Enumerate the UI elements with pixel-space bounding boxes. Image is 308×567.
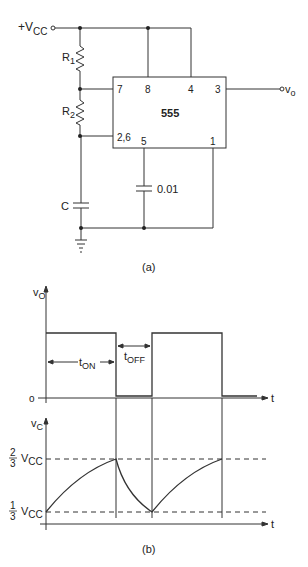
vc-curve	[46, 459, 222, 512]
r2-resistor	[76, 89, 84, 136]
vo-out-label: vo	[285, 83, 296, 98]
svg-text:VCC: VCC	[21, 452, 43, 467]
two-thirds-vcc-label: 2 3 VCC	[9, 447, 43, 469]
svg-text:2: 2	[10, 447, 16, 458]
r2-label: R2	[62, 105, 75, 120]
r1-resistor	[76, 28, 84, 89]
caption-a: (a)	[142, 261, 155, 273]
junction-dots	[78, 26, 150, 230]
ic-label: 555	[161, 107, 179, 119]
toff-label: tOFF	[124, 350, 146, 365]
vcc-rail	[51, 26, 191, 77]
pin4-label: 4	[188, 84, 194, 95]
pin7-label: 7	[117, 84, 123, 95]
timing-capacitor	[73, 136, 89, 228]
c5-label: 0.01	[157, 183, 178, 195]
r1-label: R1	[62, 51, 75, 66]
c-label: C	[61, 200, 69, 212]
control-capacitor	[136, 148, 152, 228]
svg-text:VCC: VCC	[21, 505, 43, 520]
vo-plot	[38, 286, 268, 403]
svg-text:1: 1	[10, 500, 16, 511]
ground-icon	[75, 228, 87, 252]
one-third-vcc-label: 1 3 VCC	[9, 500, 43, 522]
pin8-label: 8	[145, 84, 151, 95]
vo-t-label: t	[271, 392, 274, 404]
vc-plot	[40, 398, 268, 530]
pin26-label: 2,6	[117, 132, 131, 143]
svg-text:3: 3	[10, 511, 16, 522]
vo-axis-label: vO	[33, 286, 46, 301]
caption-b: (b)	[142, 543, 155, 555]
diagram-canvas: +VCC R1 R2 C 0.01 555 7 8 4 3 2,6 5 1 vo…	[0, 0, 308, 567]
zero-label: o	[29, 393, 35, 404]
vo-square-wave	[46, 333, 257, 396]
pin3-label: 3	[215, 84, 221, 95]
svg-text:3: 3	[10, 458, 16, 469]
pin5-label: 5	[141, 136, 147, 147]
pin1-label: 1	[210, 136, 216, 147]
vcc-label: +VCC	[18, 20, 47, 37]
vc-axis-label: vC	[31, 417, 44, 432]
vc-t-label: t	[271, 518, 274, 530]
